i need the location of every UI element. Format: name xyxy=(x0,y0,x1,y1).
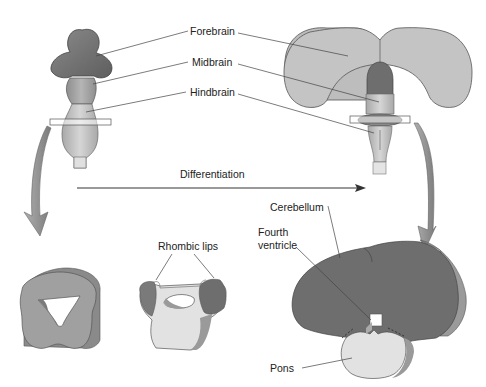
cut-plane-right xyxy=(350,116,410,123)
label-differentiation: Differentiation xyxy=(180,168,245,180)
midbrain-shape xyxy=(66,78,96,104)
differentiated-brain xyxy=(284,28,472,174)
spinal-stub xyxy=(74,157,86,168)
label-rhombic-lips: Rhombic lips xyxy=(158,240,218,252)
label-midbrain: Midbrain xyxy=(192,56,232,68)
rhombic-lip-left xyxy=(140,281,156,316)
curved-arrow-left-icon xyxy=(24,126,51,236)
early-hindbrain-section xyxy=(20,268,100,349)
curved-arrow-right-icon xyxy=(414,123,436,252)
rhombic-lip-right xyxy=(199,279,226,314)
cerebellum-pons-section xyxy=(292,240,466,379)
label-pons: Pons xyxy=(270,362,294,374)
label-cerebellum: Cerebellum xyxy=(270,201,324,213)
rhombic-lips-section xyxy=(140,279,226,350)
label-fourth-ventricle-2: ventricle xyxy=(258,239,297,251)
cerebellum-shape xyxy=(292,241,458,344)
cut-plane-left xyxy=(50,119,111,125)
forebrain-shape xyxy=(51,29,112,78)
neural-tube-differentiation-diagram: Forebrain Midbrain Hindbrain Differentia… xyxy=(0,0,486,387)
label-fourth-ventricle-1: Fourth xyxy=(258,226,289,238)
differentiation-arrow xyxy=(77,184,366,192)
embryonic-brain xyxy=(50,29,112,168)
label-forebrain: Forebrain xyxy=(190,25,235,37)
label-hindbrain: Hindbrain xyxy=(190,86,235,98)
pons-shape xyxy=(341,330,406,379)
